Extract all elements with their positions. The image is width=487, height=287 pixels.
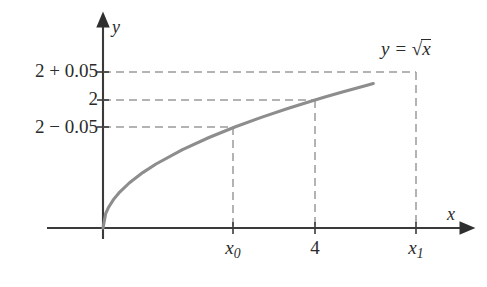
x-tick-x0-base: x — [225, 237, 233, 258]
curve-equation-label: y = √x — [381, 38, 431, 58]
y-tick-label-upper: 2 + 0.05 — [35, 61, 98, 80]
figure-container: 2 + 0.05 2 2 − 0.05 x0 4 x1 y x y = √x — [0, 0, 487, 287]
y-tick-label-middle: 2 — [89, 89, 99, 108]
x-axis-label: x — [447, 205, 455, 223]
y-tick-upper-op: + — [49, 60, 60, 81]
x-tick-x4-base: 4 — [310, 237, 320, 258]
y-tick-upper-delta: 0.05 — [65, 60, 98, 81]
y-tick-lower-op: − — [49, 116, 60, 137]
y-tick-label-lower: 2 − 0.05 — [35, 117, 98, 136]
y-axis-label: y — [112, 18, 120, 36]
y-tick-upper-base: 2 — [35, 60, 45, 81]
x-tick-x1-base: x — [408, 237, 416, 258]
y-tick-middle-base: 2 — [89, 88, 99, 109]
curve-label-radicand: x — [422, 38, 430, 59]
x-tick-x1-sub: 1 — [417, 246, 424, 261]
y-tick-lower-delta: 0.05 — [65, 116, 98, 137]
sqrt-curve — [103, 83, 373, 228]
x-tick-label-x1: x1 — [396, 238, 436, 261]
radical-bar — [421, 39, 431, 40]
curve-label-equals: = — [394, 38, 407, 59]
y-tick-lower-base: 2 — [35, 116, 45, 137]
x-tick-x0-sub: 0 — [234, 246, 241, 261]
x-tick-label-x4: 4 — [295, 238, 335, 257]
x-tick-label-x0: x0 — [213, 238, 253, 261]
curve-label-lhs: y — [381, 38, 389, 59]
sqrt-icon: √x — [412, 38, 431, 58]
